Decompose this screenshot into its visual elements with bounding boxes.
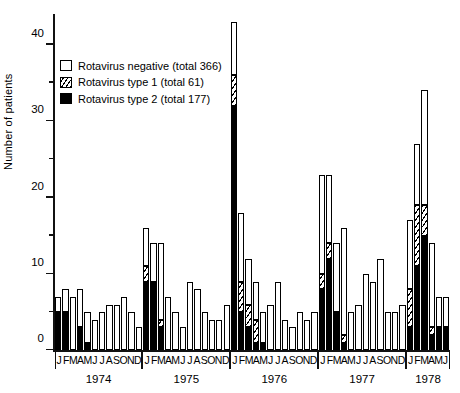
bar-segment-neg — [326, 175, 332, 244]
bar-segment-neg — [165, 297, 171, 351]
x-tick-label-1977-5: M — [347, 354, 356, 366]
x-tick-label-1976-6: J — [268, 354, 273, 366]
x-axis-month-letters: JFMAMJJASOND — [230, 352, 318, 369]
bar-1974-06 — [92, 320, 98, 351]
bar-segment-neg — [224, 305, 230, 351]
bar-segment-t1 — [231, 75, 237, 106]
bar-1977-05 — [348, 312, 354, 350]
bar-1975-06 — [180, 327, 186, 350]
bar-segment-neg — [70, 297, 76, 351]
bar-segment-t2 — [143, 282, 149, 351]
bar-1977-04 — [341, 228, 347, 350]
bar-segment-t2 — [231, 106, 237, 351]
x-tick-label-1975-6: J — [180, 354, 185, 366]
bar-segment-neg — [407, 220, 413, 289]
legend-label: Rotavirus type 1 (total 61) — [78, 76, 204, 88]
bar-1978-05 — [436, 297, 442, 351]
y-tick-label-20: 20 — [31, 180, 44, 192]
bar-segment-neg — [348, 312, 354, 350]
bar-1975-08 — [194, 289, 200, 350]
x-axis-year-label-1975: 1975 — [142, 373, 230, 385]
bar-segment-neg — [414, 144, 420, 205]
bar-1977-09 — [377, 259, 383, 351]
x-axis-month-letters: JFMAMJJASOND — [318, 352, 406, 369]
bar-1975-04 — [165, 297, 171, 351]
bar-segment-neg — [289, 327, 295, 350]
bar-1977-10 — [385, 312, 391, 350]
bar-1974-02 — [62, 289, 68, 350]
bar-segment-t2 — [407, 327, 413, 350]
x-axis-month-letters: JFMAMJJASOND — [142, 352, 230, 369]
x-axis-year-group-1974: JFMAMJJASOND1974 — [55, 352, 143, 392]
bar-segment-neg — [304, 320, 310, 351]
bar-segment-neg — [311, 312, 317, 350]
legend-item-t2: Rotavirus type 2 (total 177) — [60, 91, 222, 107]
x-tick-label-1976-5: M — [259, 354, 268, 366]
bar-1974-09 — [114, 305, 120, 351]
x-axis-year-label-1976: 1976 — [230, 373, 318, 385]
bar-1976-02 — [238, 213, 244, 351]
bar-segment-t1 — [414, 205, 420, 266]
y-tick-20 — [46, 196, 53, 197]
bar-segment-neg — [99, 312, 105, 350]
bar-segment-t1 — [238, 282, 244, 313]
x-tick-label-1975-8: A — [194, 354, 201, 366]
bar-segment-t2 — [158, 327, 164, 350]
bar-segment-neg — [172, 312, 178, 350]
rotavirus-stacked-bar-chart: Number of patients 010203040 JFMAMJJASON… — [0, 0, 460, 393]
legend-item-t1: Rotavirus type 1 (total 61) — [60, 75, 222, 91]
bar-1976-09 — [289, 327, 295, 350]
bar-1976-07 — [275, 282, 281, 351]
bar-1978-04 — [429, 243, 435, 350]
bar-segment-neg — [202, 312, 208, 350]
x-axis-year-group-1976: JFMAMJJASOND1976 — [230, 352, 318, 392]
bar-segment-neg — [370, 282, 376, 351]
bar-segment-t2 — [238, 312, 244, 350]
x-tick-label-1977-6: J — [356, 354, 361, 366]
bar-segment-neg — [84, 312, 90, 343]
bar-1975-01 — [143, 228, 149, 350]
y-tick-0 — [46, 349, 53, 350]
bar-segment-t2 — [253, 343, 259, 351]
bar-segment-neg — [282, 320, 288, 351]
bar-segment-t2 — [260, 343, 266, 351]
x-axis-year-label-1978: 1978 — [406, 373, 450, 385]
bar-1976-10 — [297, 312, 303, 350]
x-tick-label-1974-6: J — [92, 354, 97, 366]
bar-1974-07 — [99, 312, 105, 350]
bar-1974-12 — [136, 327, 142, 350]
y-tick-label-40: 40 — [31, 27, 44, 39]
x-tick-label-1974-12: D — [134, 354, 142, 366]
bar-segment-t2 — [84, 343, 90, 351]
x-tick-label-1975-5: M — [171, 354, 180, 366]
bar-segment-t2 — [150, 282, 156, 351]
bar-segment-neg — [443, 297, 449, 328]
bar-segment-neg — [421, 90, 427, 205]
bar-segment-neg — [355, 305, 361, 351]
x-tick-label-1974-1: J — [57, 354, 62, 366]
bar-1978-01 — [407, 220, 413, 350]
bar-segment-t1 — [319, 274, 325, 289]
bar-segment-neg — [121, 297, 127, 351]
x-tick-label-1974-5: M — [83, 354, 92, 366]
bar-segment-t1 — [143, 266, 149, 281]
bar-segment-neg — [106, 305, 112, 351]
bar-1975-11 — [216, 320, 222, 351]
bar-segment-neg — [180, 327, 186, 350]
bar-segment-neg — [267, 305, 273, 351]
y-tick-10 — [46, 273, 53, 274]
bar-1975-03 — [158, 243, 164, 350]
bar-1974-11 — [128, 312, 134, 350]
bar-segment-neg — [92, 320, 98, 351]
y-tick-15 — [49, 234, 54, 235]
bar-segment-neg — [245, 259, 251, 305]
legend-item-neg: Rotavirus negative (total 366) — [60, 58, 222, 74]
x-tick-label-1977-7: J — [363, 354, 368, 366]
bar-segment-neg — [377, 259, 383, 351]
bar-segment-neg — [209, 320, 215, 351]
bar-segment-neg — [341, 228, 347, 335]
x-axis-year-group-1978: JFMAMJ1978 — [406, 352, 450, 392]
bar-segment-neg — [231, 22, 237, 76]
bar-segment-neg — [392, 312, 398, 350]
x-tick-label-1976-1: J — [232, 354, 237, 366]
